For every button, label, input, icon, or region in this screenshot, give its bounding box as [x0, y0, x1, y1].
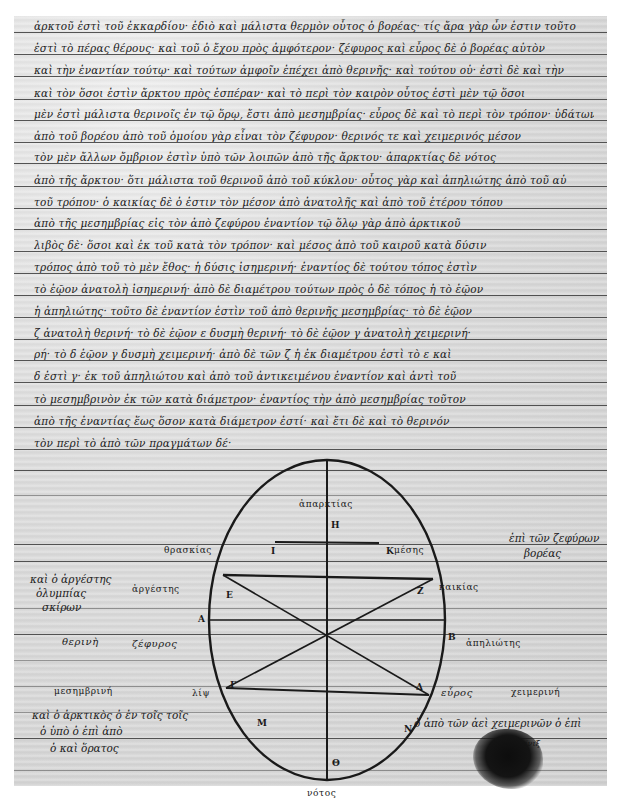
- wind-rose-diagram: [14, 16, 607, 786]
- margin-note-left-lower-2: ὁ ὑπὸ ὁ ἐπὶ ἀπὸ: [40, 724, 123, 739]
- margin-note-left-lower-3: ὁ καὶ ὅρατος: [50, 741, 119, 756]
- diagram-letter-eta: Η: [331, 520, 340, 530]
- diagram-letter-beta: Β: [448, 632, 456, 642]
- wind-label-notos: νότος: [307, 788, 336, 798]
- diagram-letter-epsilon: Ε: [226, 590, 233, 600]
- wind-label-lips: λίψ: [192, 688, 210, 698]
- wind-label-thraskias: θρασκίας: [164, 545, 212, 555]
- margin-note-left-lower-1: καὶ ὁ ἀρκτικὸς ὁ ἐν τοῖς τοῖς: [32, 708, 188, 723]
- margin-note-left-upper-1: καὶ ὁ ἀργέστης: [30, 572, 111, 587]
- margin-note-left-upper-3: σκίρων: [42, 600, 81, 615]
- wind-label-meses: μέσης: [394, 545, 424, 555]
- diagram-letter-zeta: Ζ: [417, 586, 424, 596]
- diagram-letter-theta: Θ: [332, 758, 340, 768]
- season-label-cheimerine: χειμερινή: [511, 687, 560, 697]
- wind-label-zephyros: ζέφυρος: [132, 638, 178, 649]
- chord-upper-short: [275, 542, 379, 543]
- diagram-letter-nu: Ν: [404, 724, 412, 734]
- margin-note-top-right-1: ἐπὶ τῶν ζεφύρων: [509, 531, 599, 546]
- wind-label-apeliotes: ἀπηλιώτης: [466, 638, 521, 648]
- diagram-letter-gamma: Γ: [230, 680, 236, 690]
- diagram-letter-alpha: Α: [198, 614, 205, 624]
- diagram-letter-delta: Δ: [416, 682, 423, 692]
- season-label-mesembrine: μεσημβρινή: [54, 686, 113, 696]
- margin-note-left-upper-2: ὀλυμπίας: [36, 586, 86, 601]
- margin-note-top-right-2: βορέας: [524, 546, 561, 561]
- wind-label-aparktias: ἀπαρκτίας: [299, 499, 353, 509]
- season-label-therine: θερινὴ: [62, 636, 99, 647]
- diagram-letter-mu: Μ: [257, 718, 267, 728]
- wind-label-kaikias: καικίας: [439, 582, 479, 592]
- wind-label-argestes: ἀργέστης: [132, 584, 180, 594]
- diagram-letter-kappa: Κ: [386, 546, 394, 556]
- wind-label-euros: εὖρος: [441, 687, 473, 698]
- diagram-letter-iota: Ι: [271, 546, 275, 556]
- manuscript-page: ἀρκτοῦ ἐστὶ τοῦ ἐκκαρδίου· ἐδιὸ καὶ μάλι…: [14, 16, 607, 786]
